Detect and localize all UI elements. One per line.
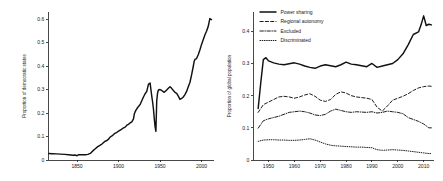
y-axis-title: Proportion of democratic states — [22, 54, 27, 118]
chart-panel-democracy: 00.10.20.30.40.50.61850190019502000Propo… — [0, 0, 222, 181]
x-tick-label: 1900 — [113, 163, 124, 169]
y-tick-label: 0.3 — [37, 86, 44, 92]
democracy-line-chart: 00.10.20.30.40.50.61850190019502000Propo… — [0, 0, 222, 181]
legend-label: Power sharing — [281, 9, 313, 15]
legend-label: Excluded — [281, 28, 302, 34]
x-tick-label: 2010 — [418, 163, 429, 169]
y-tick-label: 0.5 — [37, 39, 44, 45]
y-tick-label: 0.2 — [242, 93, 249, 99]
y-tick-label: 0.4 — [242, 28, 249, 34]
y-tick-label: 0 — [42, 157, 45, 163]
x-tick-label: 1950 — [263, 163, 274, 169]
legend-label: Regional autonomy — [281, 18, 325, 24]
x-tick-label: 1960 — [289, 163, 300, 169]
x-tick-label: 2000 — [392, 163, 403, 169]
x-tick-label: 1990 — [366, 163, 377, 169]
x-tick-label: 1850 — [71, 163, 82, 169]
y-tick-label: 0.2 — [37, 110, 44, 116]
y-tick-label: 0.6 — [37, 16, 44, 22]
y-tick-label: 0.1 — [37, 133, 44, 139]
legend-label: Discriminated — [281, 37, 312, 43]
y-tick-label: 0.4 — [37, 63, 44, 69]
ethnic-power-line-chart: 00.10.20.30.4195019601970198019902000201… — [222, 0, 443, 181]
x-tick-label: 2000 — [196, 163, 207, 169]
x-tick-label: 1980 — [340, 163, 351, 169]
x-tick-label: 1970 — [315, 163, 326, 169]
y-axis-title: Proportion of global population — [227, 54, 232, 117]
series-line-regional-autonomy — [258, 86, 431, 112]
y-tick-label: 0.3 — [242, 60, 249, 66]
series-line-proportion-of-democratic-states — [49, 19, 212, 156]
series-line-discriminated — [258, 139, 431, 154]
y-tick-label: 0.1 — [242, 125, 249, 131]
figure-container: 00.10.20.30.40.50.61850190019502000Propo… — [0, 0, 443, 181]
chart-panel-ethnic-power: 00.10.20.30.4195019601970198019902000201… — [222, 0, 443, 181]
series-line-excluded — [258, 109, 431, 128]
x-tick-label: 1950 — [154, 163, 165, 169]
y-tick-label: 0 — [247, 157, 250, 163]
